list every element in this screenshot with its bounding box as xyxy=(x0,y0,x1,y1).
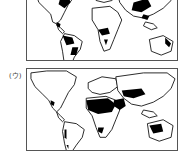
world-map-bottom xyxy=(26,68,178,151)
map-label: (ウ) xyxy=(9,70,21,80)
world-map-top-svg xyxy=(27,0,177,60)
world-map-top xyxy=(26,0,178,61)
world-map-bottom-svg xyxy=(27,69,177,150)
